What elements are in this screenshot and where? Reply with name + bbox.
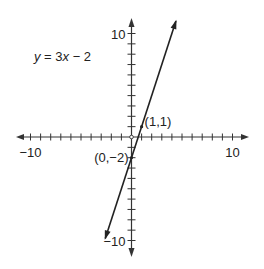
graph: (1,1)(0,−2) −101010−10 y = 3x − 2 xyxy=(0,0,264,269)
point-marker xyxy=(130,156,133,159)
equation-label: y = 3x − 2 xyxy=(33,49,91,64)
x-axis-right-arrow-icon xyxy=(241,134,249,140)
origin-marker xyxy=(130,135,134,139)
labeled-points: (1,1)(0,−2) xyxy=(94,114,171,165)
x-tick-label: −10 xyxy=(19,145,41,160)
y-tick-label: 10 xyxy=(111,27,125,42)
point-label: (0,−2) xyxy=(94,150,128,165)
y-tick-label: −10 xyxy=(103,234,125,249)
plot-line xyxy=(105,20,177,240)
y-axis-down-arrow-icon xyxy=(129,248,135,257)
point-marker xyxy=(140,125,143,128)
axis-ticks xyxy=(31,34,233,241)
x-axis-left-arrow-icon xyxy=(16,134,24,140)
line-end-arrow-icon xyxy=(171,20,177,30)
point-label: (1,1) xyxy=(145,114,172,129)
y-axis-up-arrow-icon xyxy=(129,18,135,27)
x-tick-label: 10 xyxy=(225,145,239,160)
function-line xyxy=(105,21,176,238)
